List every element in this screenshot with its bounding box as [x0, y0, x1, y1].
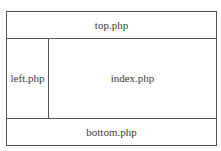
bottom-region-label: bottom.php	[86, 127, 136, 138]
main-region-label: index.php	[111, 73, 155, 84]
layout-frame: top.php left.php index.php bottom.php	[6, 11, 217, 146]
bottom-region: bottom.php	[7, 118, 216, 145]
top-region-label: top.php	[95, 20, 128, 31]
top-region: top.php	[7, 12, 216, 39]
main-region: index.php	[49, 39, 216, 118]
left-region: left.php	[7, 39, 49, 118]
left-region-label: left.php	[11, 73, 45, 84]
